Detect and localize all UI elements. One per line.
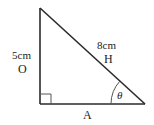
hypotenuse-side bbox=[40, 8, 145, 104]
adjacent-name-label: A bbox=[83, 108, 92, 122]
opposite-length-label: 5cm bbox=[12, 49, 31, 61]
right-angle-marker bbox=[40, 94, 51, 104]
right-triangle-diagram: 5cm O 8cm H A θ bbox=[0, 0, 154, 125]
theta-angle-label: θ bbox=[117, 89, 123, 101]
opposite-name-label: O bbox=[18, 62, 27, 76]
hypotenuse-length-label: 8cm bbox=[97, 39, 116, 51]
hypotenuse-name-label: H bbox=[104, 52, 113, 66]
